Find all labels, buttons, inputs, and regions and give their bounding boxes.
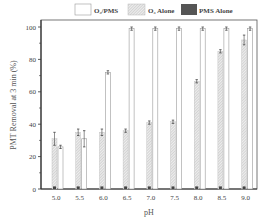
legend-label-o3-alone: O₃ Alone [148,7,174,15]
bar-o3-pms [177,29,182,189]
y-tick-label: 40 [29,121,37,129]
bar-pms-alone [219,186,222,189]
bar-o3-alone [194,81,199,189]
y-tick-label: 100 [26,24,37,32]
y-tick-label: 80 [29,56,37,64]
bar-pms-alone [124,186,127,189]
x-axis-label: pH [144,208,154,217]
bar-o3-alone [52,139,57,189]
x-tick-label: 6.5 [123,194,132,202]
x-tick-label: 8.5 [218,194,227,202]
x-tick-label: 5.0 [52,194,61,202]
legend-label-o3-pms: O₃/PMS [94,7,118,15]
y-tick-label: 20 [29,153,37,161]
x-tick-label: 9.0 [241,194,250,202]
x-tick-label: 5.5 [75,194,84,202]
bar-o3-alone [76,132,81,189]
bar-o3-pms [153,29,158,189]
y-tick-label: 60 [29,88,37,96]
legend-swatch-o3-pms [75,4,91,15]
y-tick-label: 0 [33,186,37,194]
bar-o3-pms [200,29,205,189]
y-axis-label: PMT Removal at 3 min (%) [9,60,18,150]
bar-o3-pms [58,147,63,189]
bar-o3-pms [129,29,134,189]
x-tick-label: 6.0 [99,194,108,202]
legend-label-pms-alone: PMS Alone [199,7,233,15]
y-ticks: 020406080100 [26,24,42,194]
bar-o3-alone [171,122,176,189]
bar-pms-alone [172,186,175,189]
bar-o3-alone [242,40,247,189]
bar-pms-alone [195,186,198,189]
x-tick-label: 7.0 [146,194,155,202]
chart: O₃/PMS O₃ Alone PMS Alone 020406080100 5… [0,0,267,224]
legend: O₃/PMS O₃ Alone PMS Alone [75,4,233,15]
x-ticks: 5.05.56.06.57.07.58.08.59.0 [52,194,251,202]
bar-pms-alone [148,186,151,189]
bars [52,27,253,189]
bar-o3-alone [123,131,128,189]
bar-o3-alone [99,132,104,189]
legend-swatch-pms-alone [181,4,197,15]
bar-pms-alone [53,186,56,189]
x-tick-label: 8.0 [194,194,203,202]
bar-o3-pms [248,29,253,189]
bar-o3-pms [105,72,110,189]
bar-o3-alone [218,51,223,189]
bar-o3-alone [147,123,152,189]
bar-pms-alone [77,186,80,189]
bar-o3-pms [224,29,229,189]
legend-swatch-o3-alone [128,4,145,15]
bar-pms-alone [100,186,103,189]
x-tick-label: 7.5 [170,194,179,202]
bar-pms-alone [243,186,246,189]
